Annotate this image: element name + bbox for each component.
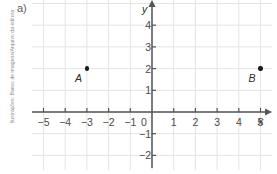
x-tick-label: −2 <box>99 117 119 128</box>
point-label-b: B <box>249 73 256 84</box>
x-tick-label: −4 <box>55 117 75 128</box>
item-label: a) <box>17 3 27 14</box>
coordinate-plane-figure: Ilustrações: Banco de imagens/Arquivo da… <box>0 0 277 174</box>
x-tick-label: 1 <box>164 117 184 128</box>
point-marker-b <box>258 66 262 70</box>
axis-lines <box>32 0 272 170</box>
point-label-a: A <box>75 73 82 84</box>
origin-label: 0 <box>134 117 154 128</box>
x-tick-label: 2 <box>185 117 205 128</box>
x-tick-label: −3 <box>77 117 97 128</box>
x-axis-name: x <box>258 116 263 127</box>
y-tick-label: −2 <box>131 150 151 161</box>
y-axis-name: y <box>142 4 147 15</box>
y-tick-label: −1 <box>131 129 151 140</box>
x-tick-label: 4 <box>229 117 249 128</box>
y-tick-label: 1 <box>131 85 151 96</box>
plot-area: −5−4−3−2−1123454321−1−20 AB x y <box>32 0 272 170</box>
y-tick-label: 3 <box>131 42 151 53</box>
y-tick-label: 4 <box>131 20 151 31</box>
x-tick-label: −5 <box>34 117 54 128</box>
y-tick-label: 2 <box>131 64 151 75</box>
image-credit: Ilustrações: Banco de imagens/Arquivo da… <box>10 0 15 142</box>
point-marker-a <box>85 66 89 70</box>
x-tick-label: 3 <box>207 117 227 128</box>
